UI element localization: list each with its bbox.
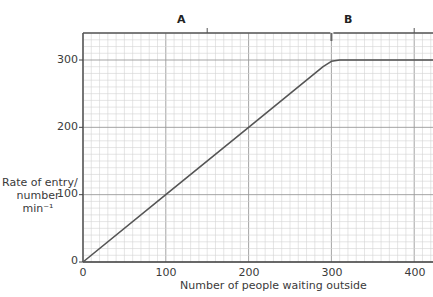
x-tick-300: 300 [317, 266, 347, 279]
annotation-a: A [177, 13, 186, 26]
y-axis-label-line-3: min⁻¹ [2, 202, 74, 215]
annotation-b: B [344, 13, 352, 26]
x-tick-0: 0 [68, 266, 98, 279]
x-tick-100: 100 [151, 266, 181, 279]
x-tick-200: 200 [234, 266, 264, 279]
x-tick-400: 400 [400, 266, 430, 279]
y-tick-100: 100 [48, 187, 78, 200]
y-tick-300: 300 [48, 53, 78, 66]
y-tick-200: 200 [48, 120, 78, 133]
chart-canvas [0, 0, 433, 297]
x-axis-label: Number of people waiting outside [180, 279, 367, 292]
